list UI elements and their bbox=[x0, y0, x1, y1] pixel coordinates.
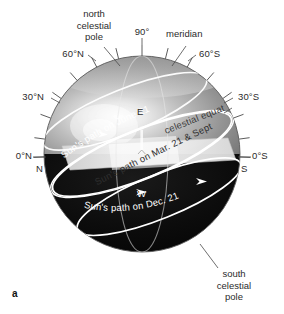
figure-letter: a bbox=[12, 288, 18, 299]
declination-label-90: 90° bbox=[126, 26, 158, 37]
cardinal-point-west: W bbox=[137, 188, 146, 199]
celestial-sphere-drawing: Sun's path on June 21 Sun's path on Mar.… bbox=[0, 0, 284, 314]
scp-line-1: south bbox=[196, 268, 272, 280]
declination-label-0n: 0°N bbox=[0, 150, 32, 161]
south-celestial-pole-callout: south celestial pole bbox=[196, 268, 272, 303]
meridian-callout: meridian bbox=[166, 28, 228, 40]
declination-label-0s: 0°S bbox=[252, 150, 284, 161]
meridian-label: meridian bbox=[166, 28, 228, 40]
celestial-sphere-figure: Sun's path on June 21 Sun's path on Mar.… bbox=[0, 0, 284, 314]
ncp-line-1: north bbox=[56, 8, 132, 20]
north-celestial-pole-callout: north celestial pole bbox=[56, 8, 132, 43]
cardinal-point-north: N bbox=[36, 163, 43, 174]
declination-label-30n: 30°N bbox=[8, 91, 44, 102]
scp-line-2: celestial bbox=[196, 280, 272, 292]
cardinal-point-east: E bbox=[137, 106, 143, 117]
ncp-line-2: celestial bbox=[56, 20, 132, 32]
cardinal-point-south: S bbox=[241, 163, 247, 174]
declination-label-60s: 60°S bbox=[199, 48, 235, 59]
declination-label-60n: 60°N bbox=[48, 48, 84, 59]
declination-label-30s: 30°S bbox=[238, 91, 274, 102]
ncp-line-3: pole bbox=[56, 31, 132, 43]
scp-line-3: pole bbox=[196, 291, 272, 303]
